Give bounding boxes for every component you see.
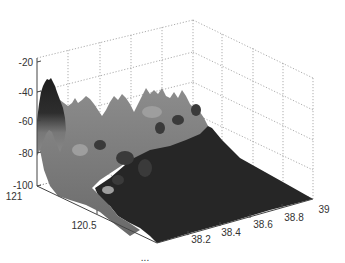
x-tick-label: 38.2 bbox=[191, 234, 211, 245]
x-tick-label: 39 bbox=[318, 204, 330, 215]
y-tick-label: 120.5 bbox=[71, 220, 96, 231]
z-tick-label: -80 bbox=[19, 148, 34, 159]
x-tick-label: 38.8 bbox=[284, 212, 304, 223]
surface-plot: -20 -40 -60 -80 -100 121 120.5 ... 38.2 … bbox=[0, 0, 345, 263]
y-tick-label: 121 bbox=[6, 191, 23, 202]
z-tick-label: -40 bbox=[19, 87, 34, 98]
x-tick-label: 38.4 bbox=[221, 227, 241, 238]
z-tick-label: -100 bbox=[13, 180, 33, 191]
z-tick-label: -20 bbox=[19, 57, 34, 68]
z-tick-labels: -20 -40 -60 -80 -100 bbox=[13, 57, 33, 191]
z-tick-label: -60 bbox=[19, 116, 34, 127]
y-tick-label: ... bbox=[141, 252, 149, 263]
x-tick-label: 38.6 bbox=[253, 219, 273, 230]
